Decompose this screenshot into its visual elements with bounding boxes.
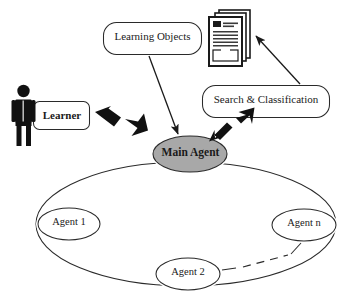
diagram-canvas: Learning Objects Search & Classification… (0, 0, 355, 303)
arrow-learning-objects-to-main-agent (149, 56, 178, 134)
learner-box (34, 102, 90, 130)
person-icon (12, 85, 36, 146)
agent-1-ellipse (38, 208, 100, 240)
arrow-search-classification-to-documents (256, 36, 300, 84)
learning-objects-box (104, 23, 202, 55)
diagram-graphics (0, 0, 355, 303)
search-classification-box (203, 86, 330, 118)
double-arrow-learner-main-agent (95, 106, 148, 136)
agent2-agentn-dashed-link (222, 243, 301, 270)
main-agent-ellipse (153, 136, 227, 172)
agent-n-ellipse (272, 209, 336, 241)
agent-2-ellipse (156, 258, 220, 290)
documents-stack-icon (209, 10, 250, 66)
